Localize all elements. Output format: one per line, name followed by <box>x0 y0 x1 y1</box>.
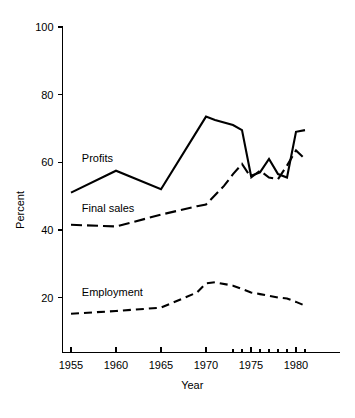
x-tick-label-1960: 1960 <box>104 359 128 371</box>
y-tick-label-20: 20 <box>41 292 53 304</box>
x-tick-label-1965: 1965 <box>149 359 173 371</box>
series-label-profits: Profits <box>82 152 114 164</box>
x-tick-label-1955: 1955 <box>59 359 83 371</box>
series-label-employment: Employment <box>82 286 143 298</box>
chart-svg: 20406080100 Percent 19551960196519701975… <box>0 0 355 418</box>
y-tick-label-80: 80 <box>41 89 53 101</box>
x-axis-title: Year <box>181 379 204 391</box>
y-tick-label-100: 100 <box>35 21 53 33</box>
x-tick-label-1970: 1970 <box>194 359 218 371</box>
chart-background <box>0 0 355 418</box>
x-tick-label-1980: 1980 <box>284 359 308 371</box>
x-tick-label-1975: 1975 <box>239 359 263 371</box>
chart-figure: 20406080100 Percent 19551960196519701975… <box>0 0 355 418</box>
series-label-final-sales: Final sales <box>82 202 135 214</box>
y-tick-label-60: 60 <box>41 156 53 168</box>
y-tick-label-40: 40 <box>41 224 53 236</box>
y-axis-title: Percent <box>14 191 26 229</box>
